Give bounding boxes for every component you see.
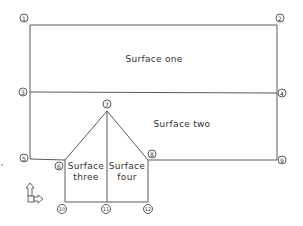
edge-3-4 (30, 92, 277, 93)
node-7: 7 (103, 100, 111, 108)
node-12: 12 (144, 205, 153, 214)
surface-three-label-line2: three (73, 172, 98, 182)
svg-text:4: 4 (280, 90, 284, 97)
node-1: 1 (20, 14, 28, 22)
svg-text:5: 5 (22, 155, 26, 162)
edge-7-8 (107, 111, 148, 160)
node-10: 10 (58, 205, 67, 214)
surface-labels: Surface one Surface two Surface three Su… (68, 54, 211, 182)
edge-6-7 (65, 111, 107, 160)
node-9: 9 (278, 156, 286, 164)
node-8: 8 (148, 150, 156, 158)
surface-one-label: Surface one (125, 54, 182, 64)
node-2: 2 (276, 14, 284, 22)
node-6: 6 (55, 162, 63, 170)
node-11: 11 (102, 205, 111, 214)
svg-text:6: 6 (57, 163, 61, 170)
svg-text:11: 11 (103, 206, 109, 212)
surface-four-label-line2: four (117, 172, 136, 182)
roof-surface-diagram: Surface one Surface two Surface three Su… (0, 0, 303, 226)
svg-text:2: 2 (278, 15, 282, 22)
stray-mark (1, 164, 3, 166)
ucs-axis-icon (26, 183, 43, 203)
surface-four-label-line1: Surface (109, 161, 146, 171)
edge-5-6 (30, 159, 65, 160)
node-markers: 1 2 3 4 5 6 7 8 9 10 11 12 (19, 14, 286, 214)
diagram-edges (30, 25, 277, 202)
node-5: 5 (20, 154, 28, 162)
svg-text:8: 8 (150, 151, 154, 158)
svg-text:9: 9 (280, 157, 284, 164)
node-3: 3 (19, 88, 27, 96)
svg-text:3: 3 (21, 89, 25, 96)
svg-text:12: 12 (145, 206, 151, 212)
node-4: 4 (278, 89, 286, 97)
svg-text:1: 1 (22, 15, 26, 22)
surface-three-label-line1: Surface (68, 161, 105, 171)
svg-text:7: 7 (105, 101, 109, 108)
svg-text:10: 10 (59, 206, 65, 212)
surface-two-label: Surface two (154, 119, 211, 129)
